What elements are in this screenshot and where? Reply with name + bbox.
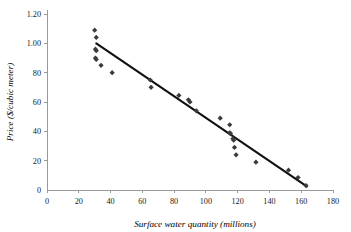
- x-tick-label: 180: [327, 197, 339, 206]
- x-tick-label: 60: [138, 197, 146, 206]
- x-tick-label: 80: [170, 197, 178, 206]
- y-tick-label: 1.00: [27, 39, 41, 48]
- trend-line: [96, 43, 307, 186]
- x-tick-label: 20: [75, 197, 83, 206]
- scatter-chart: 020406080100120140160180 0204060801.001.…: [0, 0, 351, 232]
- data-point: [92, 28, 97, 33]
- data-point: [98, 63, 103, 68]
- x-axis-tick-labels: 020406080100120140160180: [45, 197, 339, 206]
- x-axis-title: Surface water quantity (millions): [134, 219, 256, 229]
- data-points-group: [92, 28, 309, 189]
- data-point: [218, 116, 223, 121]
- data-point: [110, 70, 115, 75]
- y-tick-label: 20: [33, 157, 41, 166]
- y-tick-label: 80: [33, 69, 41, 78]
- data-point: [227, 122, 232, 127]
- data-point: [233, 152, 238, 157]
- y-tick-label: 0: [37, 186, 41, 195]
- chart-canvas: 020406080100120140160180 0204060801.001.…: [0, 0, 351, 232]
- y-axis-tick-labels: 0204060801.001.20: [27, 10, 41, 195]
- x-tick-label: 120: [232, 197, 244, 206]
- x-tick-label: 40: [106, 197, 114, 206]
- x-tick-label: 0: [45, 197, 49, 206]
- data-point: [232, 145, 237, 150]
- data-point: [148, 85, 153, 90]
- x-tick-label: 160: [295, 197, 307, 206]
- data-point: [94, 35, 99, 40]
- y-tick-label: 1.20: [27, 10, 41, 19]
- x-tick-label: 140: [263, 197, 275, 206]
- x-tick-label: 100: [200, 197, 212, 206]
- y-tick-label: 60: [33, 98, 41, 107]
- y-axis-title: Price ($/cubic meter): [5, 63, 15, 143]
- y-tick-label: 40: [33, 127, 41, 136]
- data-point: [253, 160, 258, 165]
